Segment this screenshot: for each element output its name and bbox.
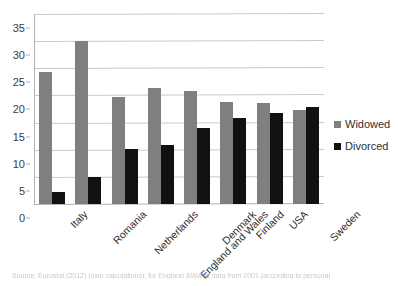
y-axis-tick-mark: [26, 218, 30, 219]
bar-group: [179, 14, 215, 204]
y-axis-tick-label: 5: [19, 185, 25, 197]
bar-group: [215, 14, 251, 204]
legend-item[interactable]: Widowed: [334, 118, 398, 130]
bar-chart-figure: 05101520253035 ItalyRomaniaNetherlandsEn…: [0, 0, 398, 286]
bar-group: [252, 14, 288, 204]
bar-divorced: [233, 118, 246, 204]
y-axis-tick-label: 20: [13, 103, 25, 115]
bar-widowed: [220, 102, 233, 204]
y-axis-tick-mark: [26, 82, 30, 83]
legend-item[interactable]: Divorced: [334, 140, 398, 152]
y-axis-tick-label: 10: [13, 158, 25, 170]
bar-group: [107, 14, 143, 204]
bar-group: [34, 14, 70, 204]
x-axis-tick-label: Sweden: [327, 208, 362, 243]
bar-widowed: [75, 41, 88, 204]
legend-label: Widowed: [345, 118, 390, 130]
bar-divorced: [125, 149, 138, 204]
plot-area: [34, 14, 324, 204]
x-axis-tick-label: Netherlands: [151, 208, 200, 257]
bars-layer: [34, 14, 324, 204]
y-axis-tick-label: 30: [13, 49, 25, 61]
bar-group: [70, 14, 106, 204]
x-axis-tick-label: Italy: [68, 208, 90, 230]
bar-divorced: [161, 145, 174, 204]
y-axis-tick-mark: [26, 55, 30, 56]
legend-swatch-icon: [334, 121, 341, 128]
y-axis-tick-mark: [26, 136, 30, 137]
x-axis-tick-label: England and Wales: [197, 208, 270, 281]
bar-divorced: [197, 128, 210, 204]
bar-widowed: [112, 97, 125, 204]
bar-group: [143, 14, 179, 204]
y-axis-tick-mark: [26, 163, 30, 164]
bar-divorced: [88, 177, 101, 204]
bar-group: [288, 14, 324, 204]
y-axis-tick-label: 35: [13, 22, 25, 34]
figure-caption: Source: Eurostat (2012) (own calculation…: [12, 272, 392, 279]
bar-widowed: [148, 88, 161, 204]
chart-legend: WidowedDivorced: [334, 118, 398, 162]
bar-widowed: [39, 72, 52, 204]
y-axis-tick-label: 15: [13, 131, 25, 143]
bar-widowed: [293, 110, 306, 204]
x-axis-tick-label: Romania: [111, 208, 149, 246]
legend-label: Divorced: [345, 140, 388, 152]
y-axis-tick-mark: [26, 190, 30, 191]
bar-widowed: [184, 91, 197, 204]
y-axis-tick-labels: 05101520253035: [0, 14, 30, 204]
y-axis-tick-mark: [26, 28, 30, 29]
bar-divorced: [52, 192, 65, 204]
bar-widowed: [257, 103, 270, 205]
bar-divorced: [306, 107, 319, 204]
y-axis-tick-label: 25: [13, 76, 25, 88]
y-axis-tick-label: 0: [19, 212, 25, 224]
bar-divorced: [270, 113, 283, 204]
y-axis-tick-mark: [26, 109, 30, 110]
x-axis-tick-label: USA: [286, 208, 310, 232]
legend-swatch-icon: [334, 143, 341, 150]
x-axis-tick-labels: ItalyRomaniaNetherlandsEngland and Wales…: [34, 206, 324, 272]
